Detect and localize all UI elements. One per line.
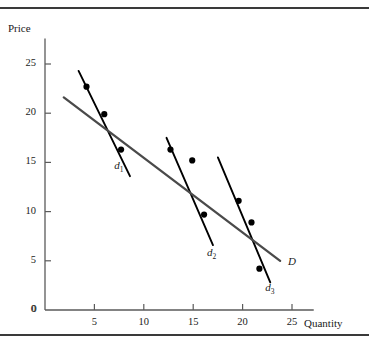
fit-line-D	[64, 97, 280, 260]
data-point-d2	[201, 211, 207, 217]
y-tick-label: 25	[14, 57, 36, 68]
curve-label-D: D	[288, 255, 296, 267]
data-point-d3	[236, 198, 242, 204]
x-tick-label: 0	[24, 303, 44, 314]
x-axis-label: Quantity	[304, 317, 343, 329]
axes-group	[45, 38, 314, 310]
curve-label-d1: d1	[114, 159, 123, 174]
curve-label-d3: d3	[265, 281, 274, 296]
y-tick-label: 10	[14, 205, 36, 216]
chart-figure: Price Quantity 0510152025 0510152025 d1d…	[0, 0, 369, 346]
data-points-group	[83, 84, 262, 272]
y-axis-label: Price	[8, 22, 31, 34]
data-point-d3	[256, 266, 262, 272]
x-tick-label: 20	[233, 316, 253, 327]
data-point-d2	[189, 157, 195, 163]
data-point-d1	[101, 111, 107, 117]
data-point-d2	[167, 147, 173, 153]
y-tick-label: 20	[14, 106, 36, 117]
scatter-plot-canvas	[0, 0, 369, 346]
x-tick-label: 25	[282, 316, 302, 327]
data-point-d3	[248, 219, 254, 225]
x-tick-label: 5	[84, 316, 104, 327]
x-tick-label: 15	[183, 316, 203, 327]
y-tick-label: 15	[14, 155, 36, 166]
y-tick-label: 5	[14, 254, 36, 265]
curve-label-d2: d2	[207, 246, 216, 261]
tick-marks-group	[45, 64, 292, 310]
data-point-d1	[83, 84, 89, 90]
data-point-d1	[118, 147, 124, 153]
x-tick-label: 10	[134, 316, 154, 327]
fit-lines-group	[64, 71, 280, 283]
